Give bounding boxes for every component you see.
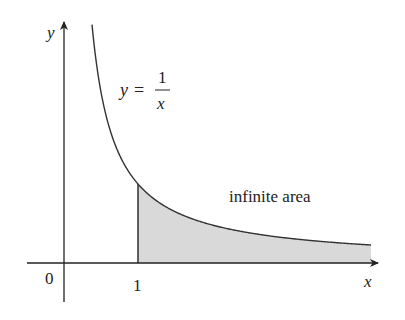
plot-canvas: y x 0 1 y = 1 x infinite area [0, 0, 405, 320]
tick-label-1: 1 [133, 276, 142, 295]
origin-label: 0 [45, 269, 54, 288]
y-axis-label: y [45, 23, 55, 42]
curve-reciprocal [92, 25, 371, 245]
equation-denominator: x [156, 94, 165, 113]
equation-y: y [118, 80, 128, 100]
equation-numerator: 1 [158, 68, 167, 87]
improper-integral-figure: y x 0 1 y = 1 x infinite area [0, 0, 405, 320]
equation-equals: = [134, 80, 144, 100]
x-axis-label: x [363, 272, 372, 291]
equation-label: y = 1 x [118, 68, 170, 113]
infinite-area-label: infinite area [229, 187, 311, 206]
